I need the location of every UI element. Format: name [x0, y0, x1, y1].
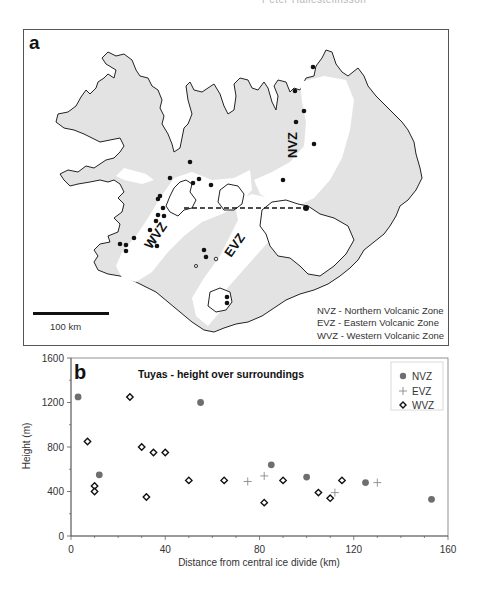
- scale-bar-label: 100 km: [50, 321, 81, 332]
- chart-panel: 040080012001600 04080120160 b Tuyas - he…: [0, 346, 478, 598]
- panel-a-letter: a: [29, 32, 40, 54]
- legend-evz-label: EVZ: [412, 386, 431, 397]
- chart-title: Tuyas - height over surroundings: [138, 368, 304, 380]
- nvz-point: [362, 479, 369, 486]
- scatter-chart: 040080012001600 04080120160 b Tuyas - he…: [0, 346, 478, 598]
- nvz-point: [268, 461, 275, 468]
- nvz-point: [197, 399, 204, 406]
- y-tick-label: 400: [47, 486, 64, 497]
- x-axis: 04080120160: [68, 536, 457, 555]
- legend-nvz-marker-icon: [400, 373, 406, 379]
- iceland-map: NVZ WVZ EVZ: [24, 30, 449, 346]
- y-axis: 040080012001600: [42, 353, 71, 542]
- nvz-map-label: NVZ: [285, 132, 300, 158]
- y-tick-label: 1600: [42, 353, 65, 364]
- x-tick-label: 160: [440, 544, 457, 555]
- legend-wvz: WVZ - Western Volcanic Zone: [317, 330, 444, 343]
- panel-b-letter: b: [74, 361, 86, 383]
- nvz-point: [96, 471, 103, 478]
- zone-legend: NVZ - Northern Volcanic Zone EVZ - Easte…: [317, 305, 444, 343]
- chart-legend: NVZ EVZ WVZ: [391, 362, 443, 411]
- map-panel: NVZ WVZ EVZ a 100 km NVZ - Northern Volc…: [23, 29, 449, 346]
- legend-nvz: NVZ - Northern Volcanic Zone: [317, 305, 444, 318]
- legend-wvz-label: WVZ: [412, 400, 434, 411]
- x-tick-label: 40: [160, 544, 172, 555]
- legend-evz: EVZ - Eastern Volcanic Zone: [317, 317, 444, 330]
- x-tick-label: 80: [254, 544, 266, 555]
- nvz-point: [428, 496, 435, 503]
- x-axis-label: Distance from central ice divide (km): [178, 557, 340, 568]
- scale-bar: [33, 312, 109, 315]
- x-tick-label: 120: [345, 544, 362, 555]
- y-tick-label: 800: [47, 442, 64, 453]
- cut-off-running-header: Peter Hallesteiinsson: [262, 0, 366, 5]
- legend-nvz-label: NVZ: [412, 371, 432, 382]
- x-tick-label: 0: [68, 544, 74, 555]
- nvz-point: [303, 474, 310, 481]
- y-tick-label: 0: [58, 531, 64, 542]
- y-tick-label: 1200: [42, 397, 65, 408]
- nvz-point: [75, 394, 82, 401]
- y-axis-label: Height (m): [21, 423, 32, 470]
